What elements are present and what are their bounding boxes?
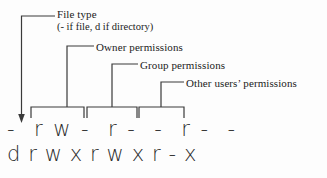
permissions-diagram: File type (- if file, d if directory) Ow… <box>0 0 327 178</box>
group-leader <box>112 64 138 107</box>
callout-owner: Owner permissions <box>96 41 183 54</box>
permission-string-directory: d r w x r w x r - x <box>7 142 197 166</box>
callout-group: Group permissions <box>140 59 225 72</box>
callout-owner-label: Owner permissions <box>96 41 183 53</box>
callout-other: Other users’ permissions <box>186 77 297 90</box>
callout-file-type-detail: (- if file, d if directory) <box>57 21 153 34</box>
callout-file-type: File type (- if file, d if directory) <box>57 8 153 33</box>
permission-string-file: - r w - r - - r - - <box>7 117 237 141</box>
callout-group-label: Group permissions <box>140 59 225 71</box>
callout-other-label: Other users’ permissions <box>186 77 297 89</box>
owner-leader <box>67 46 94 107</box>
other-leader <box>161 82 184 107</box>
callout-file-type-label: File type <box>57 8 97 20</box>
